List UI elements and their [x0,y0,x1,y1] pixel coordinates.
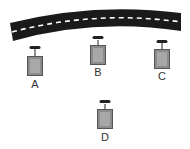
tower-c [155,40,170,69]
tower-label-d: D [95,131,115,143]
tower-label-b: B [88,66,108,78]
tower-label-c: C [152,70,172,82]
tower-b [91,36,106,65]
tower-label-a: A [25,78,45,90]
tower-d [98,100,113,129]
tower-a [28,46,43,76]
